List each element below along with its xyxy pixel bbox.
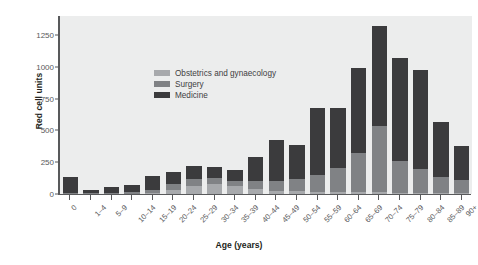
x-tick-label: 80–84 — [425, 203, 446, 224]
y-tick-mark — [55, 194, 59, 195]
legend-label: Medicine — [175, 91, 208, 100]
x-tick-label: 25–29 — [198, 203, 219, 224]
bar-segment — [145, 176, 160, 191]
bar-stack — [372, 26, 387, 194]
x-tick-label: 50–54 — [301, 203, 322, 224]
x-tick-label: 0 — [70, 203, 79, 212]
bar-segment — [330, 108, 345, 168]
x-tick-mark — [234, 195, 235, 200]
bar-stack — [207, 167, 222, 194]
x-tick-label: 40–44 — [260, 203, 281, 224]
x-tick-mark — [255, 195, 256, 200]
bar-segment — [392, 161, 407, 193]
x-tick-label: 20–24 — [177, 203, 198, 224]
bar-stack — [166, 172, 181, 194]
x-tick-mark — [337, 195, 338, 200]
y-tick-mark — [55, 66, 59, 67]
x-tick-label: 75–79 — [404, 203, 425, 224]
bar-stack — [433, 122, 448, 194]
bar-stack — [310, 108, 325, 194]
y-axis-tick-labels: 025050075010001250 — [18, 0, 54, 265]
bar-segment — [433, 177, 448, 193]
bar-segment — [248, 181, 263, 189]
x-tick-mark — [399, 195, 400, 200]
bar-stack — [63, 177, 78, 194]
bar-segment — [207, 167, 222, 178]
y-tick-label: 1250 — [20, 31, 54, 40]
x-tick-label: 65–69 — [363, 203, 384, 224]
bar-segment — [351, 153, 366, 192]
x-tick-mark — [461, 195, 462, 200]
bar-stack — [454, 146, 469, 194]
bar-segment — [330, 168, 345, 192]
x-tick-mark — [378, 195, 379, 200]
x-tick-label: 90+ — [463, 203, 478, 218]
bar-segment — [124, 185, 139, 192]
bar-segment — [227, 186, 242, 194]
bar-segment — [413, 70, 428, 169]
bar-segment — [289, 145, 304, 179]
x-tick-mark — [296, 195, 297, 200]
bar-stack — [269, 140, 284, 194]
bar-stack — [330, 108, 345, 194]
bar-segment — [166, 172, 181, 184]
x-axis-line — [58, 194, 471, 195]
x-tick-label: 5–9 — [113, 203, 128, 218]
bar-segment — [413, 169, 428, 193]
bar-stack — [289, 145, 304, 194]
x-axis-title: Age (years) — [0, 240, 478, 250]
x-tick-mark — [152, 195, 153, 200]
y-tick-label: 250 — [20, 158, 54, 167]
bar-stack — [248, 157, 263, 194]
bar-segment — [269, 140, 284, 181]
legend-label: Surgery — [175, 80, 204, 89]
x-tick-mark — [131, 195, 132, 200]
bar-segment — [227, 170, 242, 181]
bar-segment — [63, 177, 78, 192]
bar-segment — [310, 175, 325, 192]
bar-stack — [413, 70, 428, 194]
bar-stack — [351, 68, 366, 194]
x-tick-label: 30–34 — [219, 203, 240, 224]
y-tick-mark — [55, 98, 59, 99]
legend-swatch — [154, 70, 170, 76]
y-tick-label: 1000 — [20, 62, 54, 71]
x-tick-mark — [317, 195, 318, 200]
x-tick-label: 45–49 — [280, 203, 301, 224]
bar-segment — [310, 108, 325, 175]
x-tick-mark — [440, 195, 441, 200]
bar-segment — [433, 122, 448, 177]
bar-segment — [248, 157, 263, 182]
legend-item: Surgery — [154, 79, 276, 89]
bar-segment — [372, 126, 387, 192]
legend-swatch — [154, 92, 170, 98]
plot-area: Obstetrics and gynaecologySurgeryMedicin… — [59, 16, 472, 194]
bar-segment — [207, 184, 222, 194]
x-tick-mark — [69, 195, 70, 200]
bar-segment — [269, 181, 284, 191]
x-tick-label: 55–59 — [322, 203, 343, 224]
bar-segment — [186, 166, 201, 179]
chart-legend: Obstetrics and gynaecologySurgeryMedicin… — [154, 68, 276, 101]
bar-stack — [104, 187, 119, 194]
bar-stack — [145, 176, 160, 194]
x-tick-mark — [214, 195, 215, 200]
y-axis-line — [58, 16, 59, 194]
x-tick-label: 35–39 — [239, 203, 260, 224]
bar-segment — [372, 26, 387, 126]
x-tick-mark — [275, 195, 276, 200]
x-tick-mark — [172, 195, 173, 200]
bar-segment — [186, 186, 201, 194]
legend-item: Obstetrics and gynaecology — [154, 68, 276, 78]
x-tick-label: 70–74 — [383, 203, 404, 224]
legend-item: Medicine — [154, 90, 276, 100]
x-tick-label: 15–19 — [157, 203, 178, 224]
bar-stack — [124, 185, 139, 194]
y-tick-mark — [55, 130, 59, 131]
y-tick-mark — [55, 162, 59, 163]
x-tick-label: 1–4 — [93, 203, 108, 218]
x-tick-mark — [90, 195, 91, 200]
y-tick-label: 0 — [20, 190, 54, 199]
legend-label: Obstetrics and gynaecology — [175, 69, 276, 78]
bar-segment — [351, 68, 366, 153]
